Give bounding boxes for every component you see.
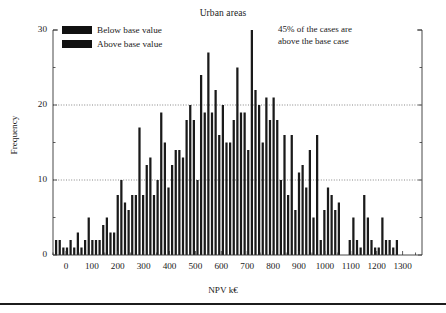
- histogram-bar: [178, 150, 180, 255]
- y-tick-label-30: 30: [27, 24, 47, 34]
- histogram-bar: [164, 143, 166, 256]
- histogram-bar: [189, 105, 191, 255]
- histogram-bar: [265, 98, 267, 256]
- histogram-bar: [193, 120, 195, 255]
- histogram-bar: [291, 135, 293, 255]
- histogram-bar: [312, 218, 314, 256]
- histogram-bar: [327, 188, 329, 256]
- histogram-bar: [109, 233, 111, 256]
- histogram-bar: [204, 113, 206, 256]
- histogram-bar: [338, 203, 340, 256]
- histogram-bar: [102, 225, 104, 255]
- histogram-bar: [84, 240, 86, 255]
- histogram-bar: [215, 90, 217, 255]
- histogram-bar: [320, 240, 322, 255]
- y-tick-label-10: 10: [27, 174, 47, 184]
- histogram-bar: [302, 165, 304, 255]
- histogram-bar: [254, 90, 256, 255]
- histogram-bar: [309, 150, 311, 255]
- histogram-bar: [106, 218, 108, 256]
- histogram-bar: [280, 180, 282, 255]
- histogram-bar: [175, 150, 177, 255]
- histogram-bar: [156, 180, 158, 255]
- histogram-bar: [120, 180, 122, 255]
- histogram-bar: [370, 240, 372, 255]
- histogram-bar: [236, 68, 238, 256]
- histogram-bar: [167, 188, 169, 256]
- histogram-bar: [262, 143, 264, 256]
- histogram-bar: [222, 105, 224, 255]
- x-tick-label-1300: 1300: [388, 261, 418, 271]
- histogram-bar: [171, 165, 173, 255]
- histogram-bar: [258, 105, 260, 255]
- histogram-bar: [142, 195, 144, 255]
- histogram-bar: [69, 240, 71, 255]
- histogram-bar: [62, 248, 64, 256]
- histogram-bar: [196, 180, 198, 255]
- histogram-bar: [396, 240, 398, 255]
- histogram-bar: [98, 240, 100, 255]
- histogram-bar: [334, 210, 336, 255]
- histogram-bar: [138, 128, 140, 256]
- histogram-bar: [113, 233, 115, 256]
- histogram-bar: [124, 203, 126, 256]
- histogram-bar: [283, 135, 285, 255]
- histogram-bar: [160, 113, 162, 256]
- histogram-bar: [367, 218, 369, 256]
- histogram-bar: [294, 210, 296, 255]
- histogram-bar: [185, 120, 187, 255]
- y-tick-label-0: 0: [27, 249, 47, 259]
- histogram-bar: [363, 195, 365, 255]
- histogram-bar: [269, 120, 271, 255]
- histogram-bar: [146, 165, 148, 255]
- histogram-bar: [316, 135, 318, 255]
- histogram-bar: [207, 53, 209, 256]
- histogram-bar: [356, 240, 358, 255]
- histogram-bar: [360, 248, 362, 256]
- histogram-bar: [251, 30, 253, 255]
- histogram-bar: [200, 75, 202, 255]
- histogram-bar: [233, 120, 235, 255]
- figure-container: Urban areas 45% of the cases are above t…: [0, 0, 446, 313]
- histogram-bar: [352, 218, 354, 256]
- histogram-bar: [287, 195, 289, 255]
- footer-rule: [0, 303, 446, 305]
- histogram-bar: [298, 173, 300, 256]
- histogram-bar: [218, 135, 220, 255]
- histogram-bar: [244, 113, 246, 256]
- histogram-bar: [211, 113, 213, 256]
- histogram-bar: [374, 248, 376, 256]
- histogram-bar: [59, 240, 61, 255]
- histogram-bar: [117, 195, 119, 255]
- histogram-bar: [95, 240, 97, 255]
- histogram-bar: [73, 248, 75, 256]
- histogram-bar: [229, 143, 231, 256]
- histogram-bar: [149, 158, 151, 256]
- histogram-bar: [135, 195, 137, 255]
- histogram-bar: [247, 150, 249, 255]
- histogram-bar: [182, 158, 184, 256]
- histogram-bar: [323, 210, 325, 255]
- histogram-bar: [273, 98, 275, 256]
- histogram-bar: [153, 195, 155, 255]
- bars-group: [55, 30, 398, 255]
- histogram-bar: [381, 218, 383, 256]
- histogram-bar: [331, 195, 333, 255]
- histogram-bar: [385, 240, 387, 255]
- histogram-bar: [88, 218, 90, 256]
- y-tick-label-20: 20: [27, 99, 47, 109]
- histogram-bar: [77, 233, 79, 256]
- histogram-bar: [305, 188, 307, 256]
- histogram-bar: [80, 248, 82, 256]
- histogram-bar: [240, 113, 242, 256]
- histogram-bar: [131, 195, 133, 255]
- histogram-bar: [127, 210, 129, 255]
- histogram-bar: [276, 120, 278, 255]
- histogram-bar: [225, 143, 227, 256]
- histogram-bar: [392, 248, 394, 256]
- histogram-bar: [378, 248, 380, 256]
- histogram-bar: [55, 240, 57, 255]
